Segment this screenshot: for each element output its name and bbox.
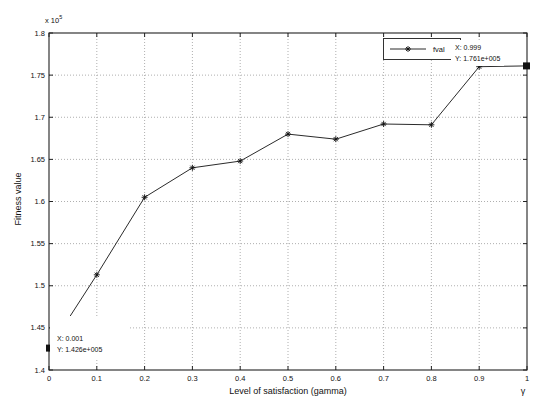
y-tick-label: 1.8 xyxy=(15,29,45,38)
y-axis-exponent-power: 5 xyxy=(59,14,62,20)
x-tick-label: 0.2 xyxy=(132,374,158,383)
datatip-max-y: Y: 1.761e+005 xyxy=(455,53,500,64)
x-tick-label: 0.1 xyxy=(84,374,110,383)
x-tick-label: 0.7 xyxy=(371,374,397,383)
x-axis-label: Level of satisfaction (gamma) xyxy=(188,386,388,396)
y-axis-exponent: x 105 xyxy=(45,14,62,25)
x-axis-symbol: γ xyxy=(514,386,532,396)
y-tick-label: 1.55 xyxy=(15,239,45,248)
datatip-max-x: X: 0.999 xyxy=(455,42,500,53)
y-tick-label: 1.5 xyxy=(15,281,45,290)
x-tick-label: 0.4 xyxy=(227,374,253,383)
y-tick-label: 1.65 xyxy=(15,155,45,164)
y-tick-label: 1.45 xyxy=(15,323,45,332)
matlab-fitness-figure: x 105 Fitness value Level of satisfactio… xyxy=(0,0,545,404)
x-tick-label: 0 xyxy=(36,374,62,383)
y-axis-exponent-prefix: x 10 xyxy=(45,16,59,25)
y-tick-label: 1.75 xyxy=(15,71,45,80)
datatip-min-x: X: 0.001 xyxy=(57,333,130,344)
x-tick-label: 0.3 xyxy=(179,374,205,383)
x-tick-label: 0.9 xyxy=(466,374,492,383)
y-tick-label: 1.6 xyxy=(15,197,45,206)
legend-marker-sample xyxy=(388,43,428,55)
x-tick-label: 0.6 xyxy=(323,374,349,383)
datatip-min: X: 0.001 Y: 1.426e+005 xyxy=(50,316,130,358)
x-tick-label: 1 xyxy=(514,374,540,383)
legend-entry-fval: fval xyxy=(433,45,445,54)
legend-box: fval xyxy=(383,38,461,60)
datatip-max: X: 0.999 Y: 1.761e+005 xyxy=(451,40,504,66)
x-tick-label: 0.5 xyxy=(275,374,301,383)
x-tick-label: 0.8 xyxy=(418,374,444,383)
y-tick-label: 1.7 xyxy=(15,113,45,122)
datatip-min-y: Y: 1.426e+005 xyxy=(57,344,130,355)
